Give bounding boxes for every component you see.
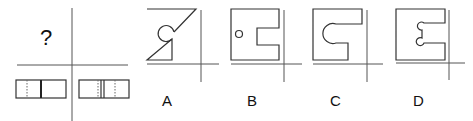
three-view-puzzle: ? A B C [0, 0, 473, 121]
option-c[interactable]: C [313, 9, 383, 109]
option-b-shape [231, 9, 279, 60]
option-c-shape [313, 9, 362, 60]
top-view-rectangle [79, 80, 129, 98]
option-a[interactable]: A [147, 9, 219, 109]
option-b[interactable]: B [231, 9, 302, 109]
option-a-label: A [162, 92, 172, 109]
left-view-rectangle [16, 80, 66, 98]
option-a-circle [158, 26, 174, 42]
option-a-shape [147, 9, 196, 60]
option-b-label: B [247, 92, 257, 109]
question-mark: ? [40, 25, 52, 50]
option-c-label: C [330, 92, 341, 109]
question-views: ? [16, 8, 129, 121]
option-d-shape [396, 9, 445, 60]
option-d[interactable]: D [396, 9, 465, 109]
option-b-circle [236, 31, 243, 38]
option-d-label: D [413, 92, 424, 109]
